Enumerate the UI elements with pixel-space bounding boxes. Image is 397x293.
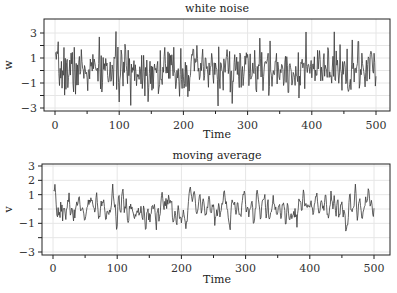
x-tick-label: 200 — [171, 262, 192, 275]
y-tick-label: 2 — [28, 174, 35, 187]
x-tick-label: 500 — [364, 262, 385, 275]
x-tick-label: 300 — [235, 262, 256, 275]
x-tick-label: 400 — [299, 262, 320, 275]
x-tick-label: 0 — [50, 262, 57, 275]
panel-title: moving average — [172, 149, 261, 162]
y-axis: −3−113 — [21, 27, 44, 115]
y-tick-label: −3 — [19, 246, 35, 259]
white-noise-panel: white noise −3−113 0100200300400500 w Ti… — [2, 2, 390, 141]
y-axis: −3−1123 — [19, 160, 42, 259]
panel-title: white noise — [185, 2, 249, 15]
x-axis-label: Time — [203, 273, 231, 286]
x-axis-label: Time — [203, 128, 231, 141]
y-tick-label: 1 — [28, 189, 35, 202]
moving-average-panel: moving average −3−1123 0100200300400500 … — [2, 149, 390, 286]
y-axis-label: w — [2, 60, 15, 70]
x-tick-label: 100 — [109, 119, 130, 132]
y-tick-label: 3 — [28, 160, 35, 173]
series-line — [56, 32, 376, 106]
x-axis: 0100200300400500 — [50, 255, 385, 275]
y-tick-label: 1 — [30, 52, 37, 65]
series-line — [54, 184, 374, 231]
y-tick-label: −1 — [19, 217, 35, 230]
y-tick-label: −3 — [21, 102, 37, 115]
x-tick-label: 400 — [301, 119, 322, 132]
y-axis-label: v — [2, 206, 15, 214]
y-tick-label: −1 — [21, 77, 37, 90]
chart-canvas: white noise −3−113 0100200300400500 w Ti… — [0, 0, 397, 293]
x-tick-label: 100 — [107, 262, 128, 275]
x-tick-label: 0 — [52, 119, 59, 132]
x-tick-label: 300 — [237, 119, 258, 132]
y-tick-label: 3 — [30, 27, 37, 40]
x-tick-label: 200 — [173, 119, 194, 132]
x-tick-label: 500 — [366, 119, 387, 132]
